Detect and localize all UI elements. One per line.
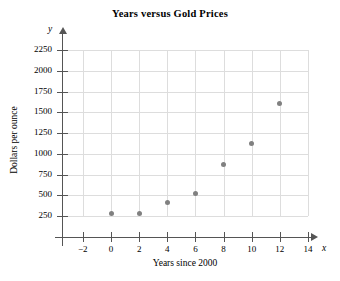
data-point (109, 211, 114, 216)
gridline-vertical (308, 50, 309, 216)
gridline-horizontal (62, 50, 308, 51)
data-point (165, 200, 170, 205)
x-axis-tick-label: 4 (154, 244, 180, 254)
chart-title: Years versus Gold Prices (0, 8, 340, 19)
x-axis-tick-label: −2 (70, 244, 96, 254)
gridline-horizontal (62, 216, 308, 217)
y-axis-tick-label: 1000 (8, 148, 52, 158)
y-axis-tick (57, 195, 68, 196)
chart-figure: Years versus Gold Prices y x Years since… (0, 0, 340, 281)
y-axis-tick (57, 133, 68, 134)
y-axis-letter: y (48, 24, 52, 34)
y-axis-tick-label: 500 (8, 189, 52, 199)
y-axis-tick (57, 71, 68, 72)
gridline-vertical (252, 50, 253, 216)
y-axis-tick-label: 750 (8, 169, 52, 179)
gridline-vertical (83, 50, 84, 216)
y-axis-tick (57, 154, 68, 155)
x-axis-tick-label: 14 (295, 244, 321, 254)
gridline-vertical (111, 50, 112, 216)
x-axis-tick (167, 232, 168, 242)
y-axis-tick-label: 2000 (8, 65, 52, 75)
x-axis-tick-label: 10 (239, 244, 265, 254)
x-axis-tick (308, 232, 309, 242)
x-axis-line (55, 237, 313, 238)
gridline-horizontal (62, 92, 308, 93)
x-axis-tick (252, 232, 253, 242)
x-axis-tick-label: 12 (267, 244, 293, 254)
x-axis-tick-label: 0 (98, 244, 124, 254)
x-axis-tick (139, 232, 140, 242)
x-axis-tick-label: 2 (126, 244, 152, 254)
plot-area (62, 50, 308, 216)
gridline-horizontal (62, 195, 308, 196)
x-axis-tick-label: 6 (182, 244, 208, 254)
gridline-vertical (139, 50, 140, 216)
y-axis-tick-label: 2250 (8, 44, 52, 54)
x-axis-letter: x (322, 243, 326, 253)
x-axis-arrowhead (311, 233, 318, 241)
gridline-horizontal (62, 112, 308, 113)
gridline-horizontal (62, 133, 308, 134)
gridline-vertical (224, 50, 225, 216)
x-axis-label: Years since 2000 (62, 258, 308, 268)
y-axis-tick (57, 92, 68, 93)
data-point (193, 191, 198, 196)
y-axis-tick (57, 216, 68, 217)
y-axis-tick (57, 112, 68, 113)
y-axis-tick-label: 1750 (8, 86, 52, 96)
x-axis-tick (195, 232, 196, 242)
gridline-horizontal (62, 71, 308, 72)
y-axis-tick (57, 175, 68, 176)
y-axis-tick-label: 1500 (8, 106, 52, 116)
x-axis-tick (83, 232, 84, 242)
x-axis-tick (111, 232, 112, 242)
x-axis-tick (280, 232, 281, 242)
x-axis-tick-label: 8 (211, 244, 237, 254)
y-axis-line (62, 34, 63, 246)
y-axis-arrowhead (59, 27, 67, 34)
x-axis-tick (224, 232, 225, 242)
y-axis-tick-label: 1250 (8, 127, 52, 137)
gridline-vertical (280, 50, 281, 216)
gridline-horizontal (62, 175, 308, 176)
gridline-horizontal (62, 154, 308, 155)
y-axis-tick (57, 50, 68, 51)
y-axis-tick-label: 250 (8, 210, 52, 220)
gridline-vertical (167, 50, 168, 216)
